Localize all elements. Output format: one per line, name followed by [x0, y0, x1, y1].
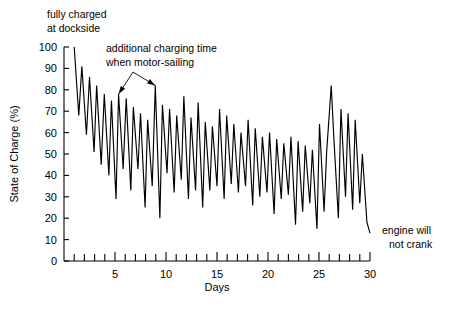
annotation-fully-charged-line2: at dockside	[47, 22, 100, 34]
y-tick-label: 80	[45, 84, 57, 96]
x-tick-label: 10	[160, 268, 172, 280]
y-tick-label: 90	[45, 62, 57, 74]
x-tick-label: 20	[262, 268, 274, 280]
chart-figure: 0102030405060708090100 51015202530 State…	[0, 0, 461, 309]
annotation-engine-line2: not crank	[389, 238, 433, 250]
x-axis-title: Days	[204, 281, 230, 293]
y-tick-label: 50	[45, 148, 57, 160]
x-tick-label: 15	[211, 268, 223, 280]
y-tick-label: 70	[45, 105, 57, 117]
state-of-charge-line-chart: 0102030405060708090100 51015202530 State…	[0, 0, 461, 309]
chart-background	[0, 0, 461, 309]
y-axis-title: State of Charge (%)	[8, 105, 20, 202]
annotation-additional-charging-line2: when motor-sailing	[105, 56, 194, 68]
y-tick-label: 100	[39, 41, 57, 53]
y-tick-label: 30	[45, 191, 57, 203]
x-tick-label: 25	[313, 268, 325, 280]
y-tick-label: 20	[45, 212, 57, 224]
y-tick-label: 10	[45, 234, 57, 246]
x-tick-label: 30	[364, 268, 376, 280]
x-tick-label: 5	[112, 268, 118, 280]
y-tick-label: 60	[45, 127, 57, 139]
annotation-fully-charged-line1: fully charged	[47, 8, 107, 20]
annotation-additional-charging-line1: additional charging time	[106, 42, 217, 54]
y-tick-label: 0	[51, 255, 57, 267]
y-tick-label: 40	[45, 169, 57, 181]
annotation-engine-line1: engine will	[382, 224, 431, 236]
